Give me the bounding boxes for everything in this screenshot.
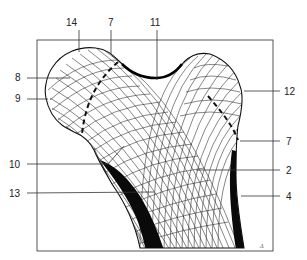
label-8: 8 xyxy=(15,72,21,83)
label-7-top: 7 xyxy=(108,17,114,28)
artist-signature: Δ xyxy=(259,243,264,249)
femur-head-and-neck xyxy=(45,48,246,250)
label-4: 4 xyxy=(286,191,292,202)
label-14: 14 xyxy=(66,17,78,28)
label-7-right: 7 xyxy=(286,136,292,147)
femur-trabecular-diagram: 14 7 11 8 9 12 10 7 2 13 4 Δ xyxy=(0,0,307,260)
label-2: 2 xyxy=(286,165,292,176)
label-9: 9 xyxy=(15,93,21,104)
label-13: 13 xyxy=(9,188,21,199)
label-11: 11 xyxy=(150,17,161,28)
marker-dot xyxy=(240,201,242,203)
label-10: 10 xyxy=(9,159,21,170)
label-12: 12 xyxy=(284,86,296,97)
